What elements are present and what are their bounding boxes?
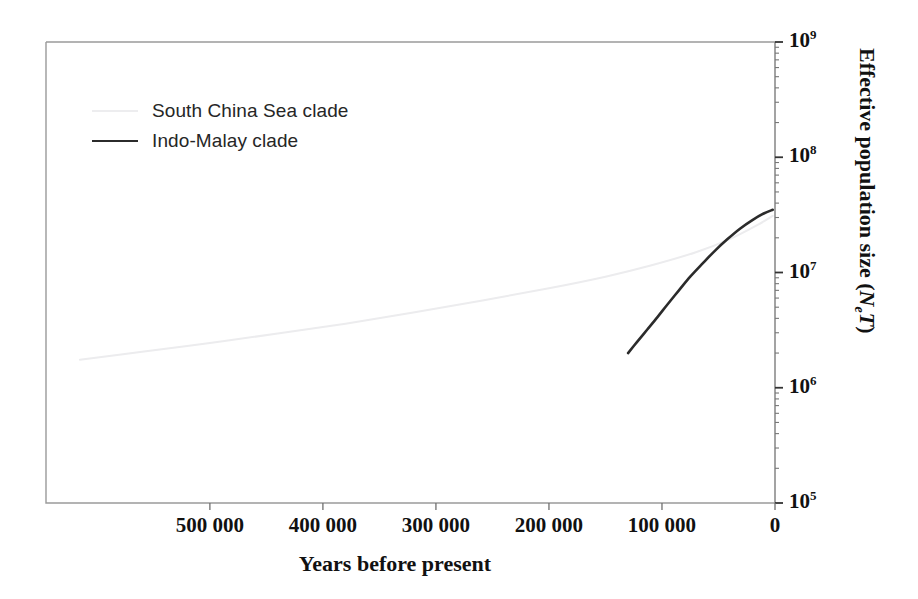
y-axis-title-symbol-t: T — [855, 313, 880, 326]
x-axis-tick-label-400000: 400 000 — [289, 513, 357, 538]
legend-label-indo-malay-clade: Indo-Malay clade — [152, 126, 298, 156]
y-tick-base: 10 — [789, 374, 810, 398]
chart-plot-area — [0, 0, 918, 599]
y-axis-title-symbol-n: N — [855, 291, 880, 307]
y-axis-tick-label-8: 108 — [789, 143, 817, 168]
y-axis-tick-label-6: 106 — [789, 374, 817, 399]
y-tick-exponent: 7 — [810, 258, 817, 273]
y-tick-exponent: 5 — [810, 488, 817, 503]
chart-background — [0, 0, 918, 599]
y-tick-base: 10 — [789, 143, 810, 167]
x-axis-tick-label-300000: 300 000 — [402, 513, 470, 538]
y-tick-exponent: 9 — [810, 27, 817, 42]
legend-line-swatch-faint — [92, 110, 138, 112]
legend-line-swatch-dark — [92, 140, 138, 142]
legend-item-south-china-sea-clade: South China Sea clade — [92, 96, 512, 126]
y-tick-base: 10 — [789, 489, 810, 513]
y-tick-base: 10 — [789, 28, 810, 52]
x-axis-tick-label-200000: 200 000 — [515, 513, 583, 538]
y-axis-tick-label-9: 109 — [789, 28, 817, 53]
y-axis-title-prefix: Effective population size ( — [855, 48, 880, 291]
chart-legend: South China Sea clade Indo-Malay clade — [92, 96, 512, 156]
x-axis-title: Years before present — [0, 551, 790, 577]
x-axis-tick-label-100000: 100 000 — [628, 513, 696, 538]
y-axis-tick-label-5: 105 — [789, 489, 817, 514]
y-tick-base: 10 — [789, 259, 810, 283]
y-tick-exponent: 6 — [810, 373, 817, 388]
y-axis-tick-label-7: 107 — [789, 259, 817, 284]
y-axis-title-suffix: ) — [855, 326, 880, 333]
legend-item-indo-malay-clade: Indo-Malay clade — [92, 126, 512, 156]
legend-label-south-china-sea-clade: South China Sea clade — [152, 96, 348, 126]
x-axis-tick-label-500000: 500 000 — [176, 513, 244, 538]
chart-figure: South China Sea clade Indo-Malay clade 1… — [0, 0, 918, 599]
x-axis-tick-label-0: 0 — [770, 513, 781, 538]
y-tick-exponent: 8 — [810, 142, 817, 157]
y-axis-title: Effective population size (NeT) — [846, 48, 880, 468]
